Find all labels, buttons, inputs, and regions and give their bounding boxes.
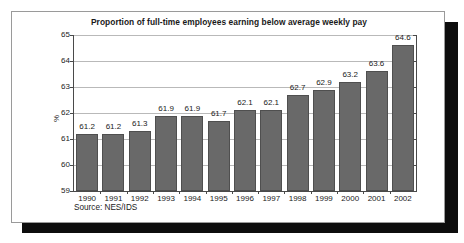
y-tick-label: 61 <box>40 135 70 143</box>
y-tick-label: 60 <box>40 161 70 169</box>
x-tick-mark <box>232 191 233 194</box>
gridline <box>74 191 416 192</box>
x-tick-mark <box>390 191 391 194</box>
x-tick-mark <box>311 191 312 194</box>
source-note: Source: NES/IDS <box>74 203 137 212</box>
x-tick-mark <box>127 191 128 194</box>
chart-figure: Proportion of full-time employees earnin… <box>0 0 464 243</box>
y-axis-right-line <box>416 35 417 191</box>
y-tick-label: 63 <box>40 83 70 91</box>
y-tick-label: 64 <box>40 57 70 65</box>
chart-panel: Proportion of full-time employees earnin… <box>11 11 445 223</box>
x-tick-mark <box>153 191 154 194</box>
x-tick-mark <box>100 191 101 194</box>
x-tick-mark <box>284 191 285 194</box>
y-tick-label: 62 <box>40 109 70 117</box>
y-tick-mark-right <box>413 191 417 192</box>
chart-title: Proportion of full-time employees earnin… <box>12 17 446 27</box>
x-tick-mark <box>363 191 364 194</box>
x-tick-mark <box>258 191 259 194</box>
plot-area: 61.261.261.361.961.961.762.162.162.762.9… <box>74 35 416 191</box>
y-tick-label: 65 <box>40 31 70 39</box>
y-tick-label: 59 <box>40 187 70 195</box>
x-tick-mark <box>179 191 180 194</box>
x-tick-mark <box>337 191 338 194</box>
x-tick-mark <box>206 191 207 194</box>
axis-labels: 5960616263646519901991199219931994199519… <box>74 35 416 191</box>
x-tick-label: 2002 <box>387 195 419 203</box>
y-tick-mark <box>70 191 74 192</box>
